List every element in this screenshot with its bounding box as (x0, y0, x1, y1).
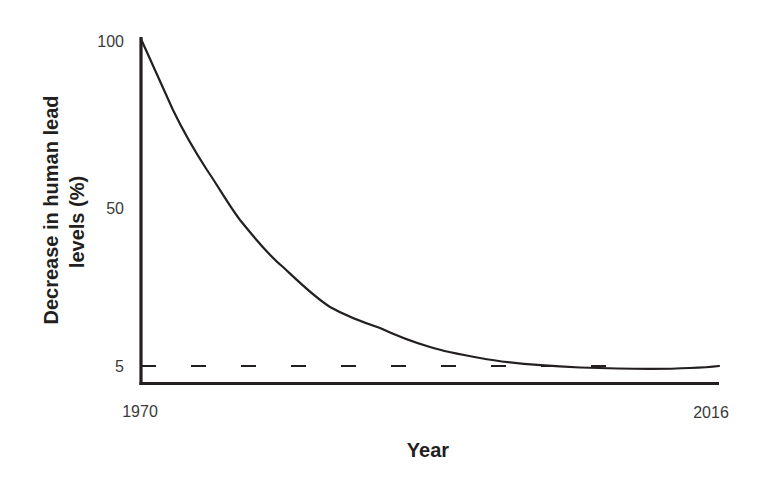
y-axis-title: Decrease in human lead levels (%) (40, 96, 88, 325)
x-tick-2016: 2016 (693, 404, 729, 421)
y-tick-100: 100 (97, 33, 124, 50)
y-tick-5: 5 (115, 358, 124, 375)
lead-level-curve (141, 39, 719, 369)
y-axis-title-line2: levels (%) (66, 176, 88, 268)
lead-decline-chart: Decrease in human lead levels (%) 100 50… (0, 0, 768, 484)
y-tick-50: 50 (106, 200, 124, 217)
y-axis-title-line1: Decrease in human lead (40, 96, 62, 325)
x-axis-title: Year (407, 439, 449, 461)
x-tick-1970: 1970 (122, 403, 158, 420)
